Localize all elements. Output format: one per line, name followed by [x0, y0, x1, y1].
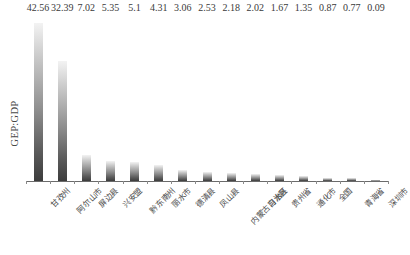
bar-value-label: 0.87 — [319, 2, 337, 13]
bar-value-label: 32.39 — [51, 2, 74, 13]
x-axis-tick — [195, 181, 196, 184]
bar-3: 7.02 — [82, 14, 91, 181]
y-axis-title: GEP:GDP — [8, 78, 22, 168]
bar-value-label: 0.77 — [343, 2, 361, 13]
bar-2: 32.39 — [58, 14, 67, 181]
x-axis-tick — [267, 181, 268, 184]
bar-value-label: 2.02 — [247, 2, 265, 13]
bar-value-label: 5.1 — [128, 2, 141, 13]
bar-value-label: 0.09 — [367, 2, 385, 13]
bar-rect: 4.31 — [154, 165, 163, 181]
bar-rect: 42.56 — [34, 23, 43, 181]
bar-rect: 5.1 — [130, 162, 139, 181]
plot-area: 42.5632.397.025.355.14.313.062.532.182.0… — [26, 14, 388, 181]
bar-6: 4.31 — [154, 14, 163, 181]
x-axis-label-4: 兴安盟 — [121, 186, 144, 209]
x-axis-tick — [123, 181, 124, 184]
bar-rect: 2.02 — [251, 174, 260, 181]
bar-4: 5.35 — [106, 14, 115, 181]
x-axis-label-7: 德清县 — [194, 186, 217, 209]
x-axis-tick — [340, 181, 341, 184]
x-axis-label-15: 深圳市 — [387, 186, 410, 209]
bar-value-label: 5.35 — [102, 2, 120, 13]
bar-rect: 7.02 — [82, 155, 91, 181]
bar-14: 0.77 — [347, 14, 356, 181]
bar-5: 5.1 — [130, 14, 139, 181]
x-axis-tick — [388, 181, 389, 184]
bar-value-label: 2.53 — [198, 2, 216, 13]
x-axis-tick — [98, 181, 99, 184]
bar-value-label: 1.67 — [271, 2, 289, 13]
bar-value-label: 42.56 — [27, 2, 50, 13]
x-axis-label-14: 青海省 — [363, 186, 386, 209]
x-axis-label-8: 凤山县 — [218, 186, 241, 209]
x-axis-label-13: 全国 — [336, 186, 354, 204]
x-axis-tick — [26, 181, 27, 184]
bar-9: 2.18 — [227, 14, 236, 181]
bar-7: 3.06 — [178, 14, 187, 181]
bar-rect: 2.18 — [227, 173, 236, 181]
bar-10: 2.02 — [251, 14, 260, 181]
x-axis-tick — [74, 181, 75, 184]
bar-value-label: 3.06 — [174, 2, 192, 13]
x-axis-tick — [364, 181, 365, 184]
x-axis-tick — [243, 181, 244, 184]
bar-rect: 3.06 — [178, 170, 187, 181]
x-axis-line — [26, 181, 388, 182]
x-axis-tick — [291, 181, 292, 184]
bar-rect: 2.53 — [203, 172, 212, 181]
x-axis-label-12: 通化市 — [315, 186, 338, 209]
bar-value-label: 2.18 — [222, 2, 240, 13]
bar-12: 1.35 — [299, 14, 308, 181]
x-axis-tick — [316, 181, 317, 184]
bar-rect: 32.39 — [58, 61, 67, 181]
bar-value-label: 1.35 — [295, 2, 313, 13]
bar-8: 2.53 — [203, 14, 212, 181]
x-axis-label-10: 习水县 — [266, 186, 289, 209]
x-axis-label-11: 贵州省 — [290, 186, 313, 209]
y-axis-title-text: GEP:GDP — [10, 100, 21, 146]
bar-11: 1.67 — [275, 14, 284, 181]
bar-value-label: 7.02 — [78, 2, 96, 13]
x-axis-label-1: 甘孜州 — [49, 186, 72, 209]
bar-rect: 5.35 — [106, 161, 115, 181]
bar-15: 0.09 — [371, 14, 380, 181]
x-axis-tick — [50, 181, 51, 184]
bar-13: 0.87 — [323, 14, 332, 181]
x-axis-tick — [219, 181, 220, 184]
bar-1: 42.56 — [34, 14, 43, 181]
bar-value-label: 4.31 — [150, 2, 168, 13]
x-axis-tick — [171, 181, 172, 184]
x-axis-tick — [147, 181, 148, 184]
